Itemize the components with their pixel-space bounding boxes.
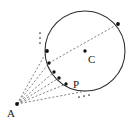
vertical-ellipsis-dot-3 [39, 42, 41, 44]
marked-points [15, 22, 120, 106]
ray-1 [17, 51, 47, 104]
vertical-ellipsis-dot-1 [39, 32, 41, 34]
label-a: A [7, 107, 15, 119]
intersection-point-2 [47, 61, 50, 64]
ray-3 [17, 72, 54, 104]
circle-center-c [83, 49, 86, 52]
vertical-ellipsis [39, 32, 41, 44]
label-c: C [88, 53, 95, 65]
diagonal-ellipsis-dot-3 [88, 94, 90, 96]
intersection-point-1 [45, 49, 49, 53]
vertical-ellipsis-dot-2 [39, 37, 41, 39]
figure-canvas: A C P [0, 0, 135, 124]
diagonal-ellipsis-dot-1 [78, 96, 80, 98]
diagonal-ellipsis-dot-2 [83, 95, 85, 97]
diameter-line [49, 24, 118, 63]
intersection-point-4 [57, 76, 60, 79]
diagonal-ellipsis [78, 94, 90, 98]
diameter-endpoint [116, 22, 120, 26]
geometry-figure: A C P [0, 0, 135, 124]
intersection-point-3 [52, 70, 55, 73]
label-p: P [73, 78, 79, 90]
external-point-a [15, 102, 19, 106]
point-p [64, 82, 67, 85]
